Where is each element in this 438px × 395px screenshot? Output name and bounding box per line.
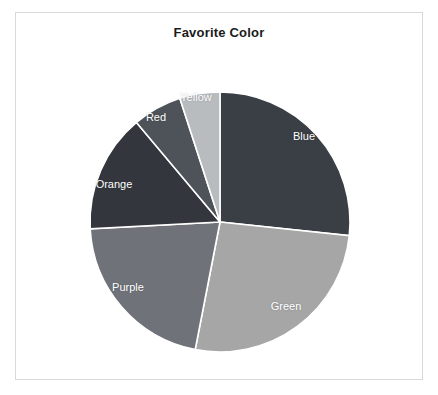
pie-chart: BlueGreenPurpleOrangeRedYellow <box>0 0 438 395</box>
pie-slice-label-green: Green <box>271 300 302 312</box>
pie-slice-label-blue: Blue <box>293 130 315 142</box>
pie-slice-blue[interactable] <box>220 92 350 236</box>
pie-slice-label-red: Red <box>146 111 166 123</box>
pie-slice-label-yellow: Yellow <box>180 91 211 103</box>
pie-svg <box>0 0 438 395</box>
pie-slice-label-purple: Purple <box>112 281 144 293</box>
pie-slice-label-orange: Orange <box>96 178 133 190</box>
pie-slice-green[interactable] <box>195 222 349 352</box>
